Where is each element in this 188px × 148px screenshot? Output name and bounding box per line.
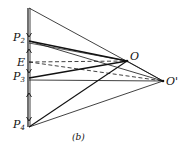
label-oprime: O' xyxy=(166,75,178,88)
point-o xyxy=(126,60,129,63)
ray-p3-to-o xyxy=(29,61,127,78)
label-e: E xyxy=(16,56,25,69)
arrow-down-icon xyxy=(27,69,32,73)
ray-diagram: P2 E P3 P4 O O' (b) xyxy=(0,0,188,148)
dashed-e-to-o xyxy=(29,61,127,62)
arrow-down-icon xyxy=(27,33,32,37)
segment-o-to-oprime xyxy=(127,61,163,81)
ray-p4-to-o xyxy=(29,61,127,127)
arrow-up-icon xyxy=(27,93,32,97)
arrow-down-icon xyxy=(27,117,32,121)
figure-caption: (b) xyxy=(72,132,85,142)
label-o: O xyxy=(130,50,139,63)
label-p4: P4 xyxy=(12,118,25,132)
label-p3: P3 xyxy=(12,70,25,84)
point-oprime xyxy=(162,80,165,83)
ray-p4-to-oprime xyxy=(29,81,163,127)
ray-p3-to-oprime xyxy=(29,80,163,81)
dashed-e-to-oprime xyxy=(29,62,163,81)
label-p2: P2 xyxy=(12,31,25,45)
arrow-up-icon xyxy=(27,49,32,53)
